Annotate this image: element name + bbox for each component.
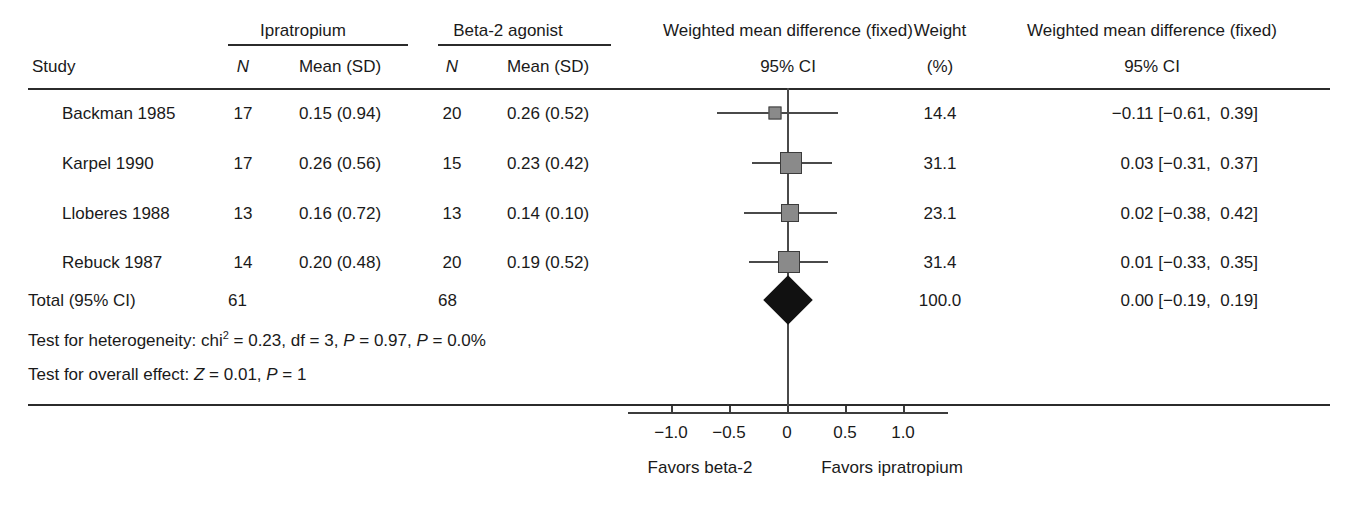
row-n-right: 20 bbox=[443, 105, 462, 122]
total-n-right: 68 bbox=[438, 292, 457, 309]
row-weight: 23.1 bbox=[923, 205, 956, 222]
row-mean-right: 0.23 (0.42) bbox=[507, 155, 589, 172]
row-n-left: 13 bbox=[234, 205, 253, 222]
column-header-n-left: N bbox=[237, 58, 249, 75]
row-mean-left: 0.26 (0.56) bbox=[299, 155, 381, 172]
row-effect-ci: 0.03 [−0.31, 0.37] bbox=[1120, 155, 1258, 172]
row-n-right: 20 bbox=[443, 254, 462, 271]
header-separator-rule bbox=[28, 88, 1330, 90]
effect-column-subtitle: 95% CI bbox=[1124, 58, 1180, 75]
row-effect-ci: 0.01 [−0.33, 0.35] bbox=[1120, 254, 1258, 271]
total-n-left: 61 bbox=[228, 292, 247, 309]
row-effect-ci: −0.11 [−0.61, 0.39] bbox=[1112, 105, 1258, 122]
overall-p-symbol: P bbox=[266, 365, 277, 384]
effect-marker bbox=[778, 251, 800, 273]
effect-marker bbox=[780, 152, 802, 174]
null-effect-line bbox=[787, 88, 789, 412]
total-label: Total (95% CI) bbox=[28, 292, 136, 309]
row-study-name: Lloberes 1988 bbox=[62, 205, 170, 222]
overall-mid: = 0.01, bbox=[204, 365, 266, 384]
column-header-mean-right: Mean (SD) bbox=[507, 58, 589, 75]
x-axis-label: 0 bbox=[782, 424, 791, 441]
x-axis-tick bbox=[787, 406, 789, 413]
row-n-left: 17 bbox=[234, 105, 253, 122]
row-mean-right: 0.19 (0.52) bbox=[507, 254, 589, 271]
heterogeneity-i-symbol: P bbox=[416, 331, 427, 350]
plot-column-title: Weighted mean difference (fixed) bbox=[663, 22, 913, 39]
total-weight: 100.0 bbox=[919, 292, 962, 309]
x-axis-tick bbox=[903, 406, 905, 413]
row-weight: 14.4 bbox=[923, 105, 956, 122]
heterogeneity-mid2: = 0.97, bbox=[355, 331, 417, 350]
group-underline-left bbox=[228, 44, 408, 46]
row-n-right: 15 bbox=[443, 155, 462, 172]
overall-z-symbol: Z bbox=[194, 365, 204, 384]
x-axis-tick bbox=[729, 406, 731, 413]
row-mean-left: 0.15 (0.94) bbox=[299, 105, 381, 122]
heterogeneity-p-symbol: P bbox=[343, 331, 354, 350]
column-header-n-right: N bbox=[446, 58, 458, 75]
x-axis-tick bbox=[671, 406, 673, 413]
row-mean-left: 0.16 (0.72) bbox=[299, 205, 381, 222]
row-n-left: 14 bbox=[234, 254, 253, 271]
row-study-name: Rebuck 1987 bbox=[62, 254, 162, 271]
group-header-ipratropium: Ipratropium bbox=[260, 22, 346, 39]
overall-tail: = 1 bbox=[278, 365, 307, 384]
row-effect-ci: 0.02 [−0.38, 0.42] bbox=[1120, 205, 1258, 222]
footer-separator-rule bbox=[28, 404, 1330, 406]
column-header-mean-left: Mean (SD) bbox=[299, 58, 381, 75]
x-axis-label: −1.0 bbox=[654, 424, 688, 441]
row-n-right: 13 bbox=[443, 205, 462, 222]
favors-left-label: Favors beta-2 bbox=[648, 459, 753, 476]
heterogeneity-test: Test for heterogeneity: chi2 = 0.23, df … bbox=[28, 330, 486, 349]
weight-column-subtitle: (%) bbox=[927, 58, 953, 75]
row-weight: 31.1 bbox=[923, 155, 956, 172]
effect-marker bbox=[781, 204, 799, 222]
group-header-beta2: Beta-2 agonist bbox=[453, 22, 563, 39]
x-axis-label: 1.0 bbox=[891, 424, 915, 441]
heterogeneity-mid: = 0.23, df = 3, bbox=[229, 331, 343, 350]
effect-marker bbox=[769, 107, 782, 120]
x-axis-label: −0.5 bbox=[712, 424, 746, 441]
pooled-effect-diamond bbox=[763, 275, 812, 324]
overall-effect-test: Test for overall effect: Z = 0.01, P = 1 bbox=[28, 366, 306, 383]
favors-right-label: Favors ipratropium bbox=[821, 459, 963, 476]
row-mean-right: 0.26 (0.52) bbox=[507, 105, 589, 122]
heterogeneity-tail: = 0.0% bbox=[428, 331, 486, 350]
row-weight: 31.4 bbox=[923, 254, 956, 271]
x-axis-label: 0.5 bbox=[833, 424, 857, 441]
row-mean-right: 0.14 (0.10) bbox=[507, 205, 589, 222]
group-underline-right bbox=[438, 44, 611, 46]
heterogeneity-prefix: Test for heterogeneity: chi bbox=[28, 331, 223, 350]
row-mean-left: 0.20 (0.48) bbox=[299, 254, 381, 271]
weight-column-title: Weight bbox=[914, 22, 967, 39]
overall-prefix: Test for overall effect: bbox=[28, 365, 194, 384]
row-study-name: Backman 1985 bbox=[62, 105, 175, 122]
total-effect-ci: 0.00 [−0.19, 0.19] bbox=[1120, 292, 1258, 309]
column-header-study: Study bbox=[32, 58, 75, 75]
row-study-name: Karpel 1990 bbox=[62, 155, 154, 172]
forest-plot: Ipratropium Beta-2 agonist Study N Mean … bbox=[0, 0, 1350, 510]
row-n-left: 17 bbox=[234, 155, 253, 172]
x-axis-tick bbox=[845, 406, 847, 413]
plot-column-subtitle: 95% CI bbox=[760, 58, 816, 75]
effect-column-title: Weighted mean difference (fixed) bbox=[1027, 22, 1277, 39]
